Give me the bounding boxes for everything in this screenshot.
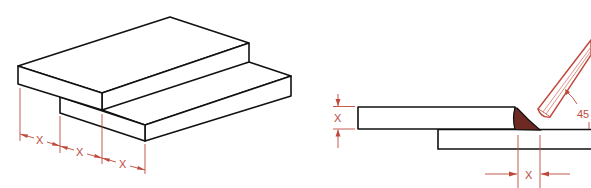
overlap-label: X: [525, 169, 533, 181]
thickness-label: X: [334, 112, 342, 124]
dimension-label-x1: X: [36, 134, 44, 146]
arrow-icon: [60, 146, 68, 150]
dimension-label-x3: X: [119, 158, 127, 170]
arrow-icon: [336, 99, 341, 106]
arrow-icon: [102, 158, 110, 162]
arrow-icon: [52, 142, 60, 146]
arrow-icon: [137, 166, 145, 170]
isometric-view: X X X: [18, 17, 291, 174]
arrow-icon: [94, 154, 102, 158]
arrow-icon: [336, 130, 341, 137]
fillet-weld: [514, 108, 541, 130]
lap-joint-diagram: X X X 45 X: [0, 0, 591, 188]
arrow-icon: [541, 172, 549, 177]
dimension-label-x2: X: [76, 146, 84, 158]
section-view: 45 X X: [333, 40, 591, 188]
arrow-icon: [509, 172, 517, 177]
angle-label: 45: [577, 108, 589, 120]
arrow-icon: [20, 134, 28, 138]
top-plate-section: [358, 107, 515, 129]
bottom-plate-section: [438, 130, 591, 150]
electrode-rod: [538, 40, 591, 117]
